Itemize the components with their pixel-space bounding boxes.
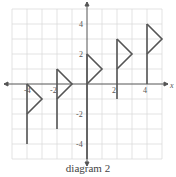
x-axis-arrow-right-icon [164,82,168,86]
x-axis-label: x [169,81,174,90]
flags [27,24,162,159]
x-tick-2: 2 [112,86,116,95]
axes [4,2,168,166]
y-tick-4: 4 [79,20,83,29]
x-tick-4: 4 [143,86,147,95]
coordinate-plane: -4 -2 2 4 x 4 2 -2 -4 [0,0,176,177]
y-axis-arrow-up-icon [85,2,89,6]
y-tick-neg2: -2 [76,110,83,119]
flag-3 [87,54,102,159]
y-tick-2: 2 [79,50,83,59]
y-tick-neg4: -4 [76,140,83,149]
x-axis-arrow-left-icon [4,82,8,86]
diagram-caption: diagram 2 [0,162,176,174]
x-tick-neg2: -2 [50,86,57,95]
